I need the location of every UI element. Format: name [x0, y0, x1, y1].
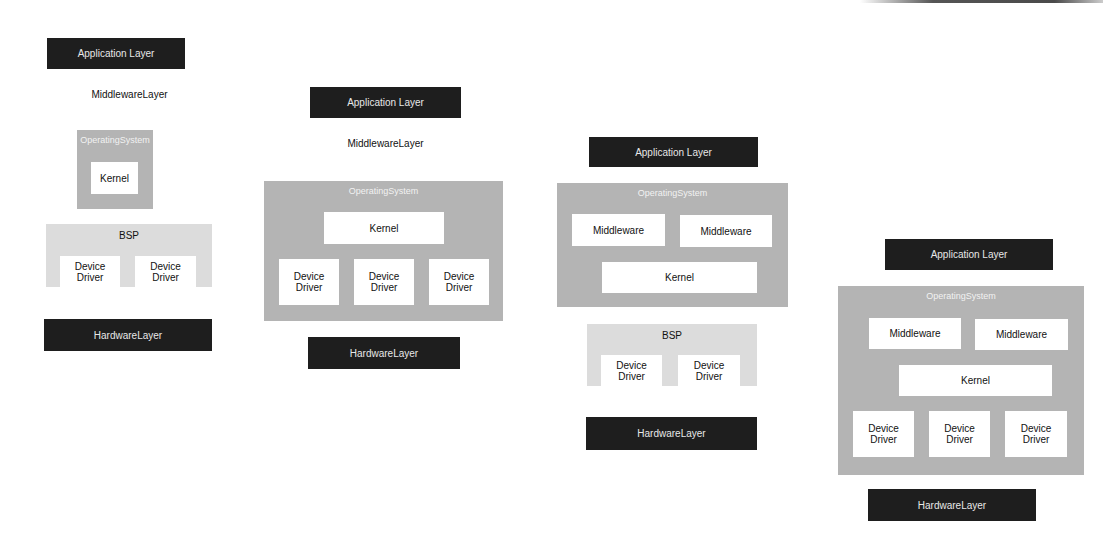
device-driver-box: Device Driver — [354, 259, 414, 305]
hardware-layer-label: HardwareLayer — [94, 330, 162, 341]
hardware-layer: HardwareLayer — [586, 417, 757, 450]
operating-system-container: OperatingSystem Middleware Middleware Ke… — [838, 286, 1084, 475]
middleware-box: Middleware — [572, 214, 665, 246]
kernel-box: Kernel — [602, 262, 757, 293]
kernel-label: Kernel — [370, 223, 399, 234]
device-driver-box: Device Driver — [279, 259, 339, 305]
operating-system-title: OperatingSystem — [77, 135, 153, 146]
middleware-box: Middleware — [680, 215, 772, 247]
kernel-label: Kernel — [665, 272, 694, 283]
operating-system-title: OperatingSystem — [557, 188, 788, 199]
device-driver-box: Device Driver — [429, 259, 489, 305]
bsp-title: BSP — [587, 330, 757, 341]
middleware-label: Middleware — [996, 329, 1047, 340]
operating-system-container: OperatingSystem Middleware Middleware Ke… — [557, 183, 788, 307]
middleware-label: Middleware — [593, 225, 644, 236]
middleware-layer-label: MiddlewareLayer — [310, 138, 461, 149]
application-layer: Application Layer — [310, 87, 461, 118]
application-layer-label: Application Layer — [347, 97, 424, 108]
bsp-container: BSP Device Driver Device Driver — [46, 224, 212, 287]
device-driver-box: Device Driver — [1005, 411, 1067, 457]
device-driver-label: Device Driver — [439, 271, 479, 293]
device-driver-box: Device Driver — [601, 355, 662, 387]
device-driver-box: Device Driver — [60, 256, 120, 288]
device-driver-label: Device Driver — [864, 423, 904, 445]
hardware-layer-label: HardwareLayer — [637, 428, 705, 439]
application-layer-label: Application Layer — [931, 249, 1008, 260]
middleware-label: Middleware — [889, 328, 940, 339]
kernel-box: Kernel — [324, 212, 444, 244]
device-driver-label: Device Driver — [689, 360, 729, 382]
operating-system-title: OperatingSystem — [264, 186, 503, 197]
top-divider-line — [860, 0, 1103, 3]
operating-system-container: OperatingSystem Kernel Device Driver Dev… — [264, 181, 503, 321]
device-driver-label: Device Driver — [289, 271, 329, 293]
kernel-label: Kernel — [961, 375, 990, 386]
operating-system-title: OperatingSystem — [838, 291, 1084, 302]
hardware-layer: HardwareLayer — [44, 319, 212, 351]
device-driver-label: Device Driver — [146, 261, 186, 283]
device-driver-box: Device Driver — [853, 411, 914, 457]
hardware-layer-label: HardwareLayer — [350, 348, 418, 359]
application-layer-label: Application Layer — [635, 147, 712, 158]
device-driver-label: Device Driver — [612, 360, 652, 382]
hardware-layer-label: HardwareLayer — [918, 500, 986, 511]
bsp-title: BSP — [46, 230, 212, 241]
device-driver-box: Device Driver — [678, 355, 740, 387]
hardware-layer: HardwareLayer — [868, 489, 1036, 521]
kernel-label: Kernel — [100, 173, 129, 184]
middleware-box: Middleware — [869, 318, 961, 349]
bsp-container: BSP Device Driver Device Driver — [587, 324, 757, 386]
kernel-box: Kernel — [899, 365, 1052, 396]
middleware-layer-label: MiddlewareLayer — [47, 89, 212, 100]
device-driver-label: Device Driver — [940, 423, 980, 445]
kernel-box: Kernel — [91, 162, 138, 194]
application-layer-label: Application Layer — [78, 48, 155, 59]
application-layer: Application Layer — [885, 239, 1053, 270]
hardware-layer: HardwareLayer — [308, 337, 460, 369]
device-driver-label: Device Driver — [1016, 423, 1056, 445]
device-driver-box: Device Driver — [135, 256, 196, 288]
device-driver-label: Device Driver — [70, 261, 110, 283]
device-driver-label: Device Driver — [364, 271, 404, 293]
middleware-box: Middleware — [975, 319, 1068, 350]
application-layer: Application Layer — [47, 38, 185, 69]
operating-system-container: OperatingSystem Kernel — [77, 130, 153, 209]
device-driver-box: Device Driver — [929, 411, 990, 457]
application-layer: Application Layer — [589, 137, 758, 167]
middleware-label: Middleware — [700, 226, 751, 237]
